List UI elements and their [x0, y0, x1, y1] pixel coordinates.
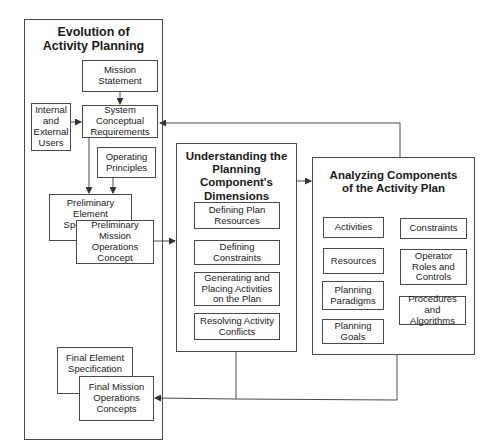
analyzing-item-planning-paradigms: Planning Paradigms — [322, 281, 384, 310]
final-mission-operations-concepts-box: Final Mission Operations Concepts — [79, 376, 154, 421]
understanding-item: Defining Constraints — [194, 240, 280, 265]
analyzing-item-operator-roles: Operator Roles and Controls — [400, 249, 467, 285]
analyzing-item-procedures-algorithms: Procedures and Algorithms — [399, 296, 466, 325]
analyzing-item-resources: Resources — [323, 248, 384, 274]
evolution-title: Evolution of Activity Planning — [24, 25, 163, 54]
understanding-item: Resolving Activity Conflicts — [194, 313, 280, 340]
analyzing-item-activities: Activities — [323, 217, 384, 238]
system-conceptual-requirements-box: System Conceptual Requirements — [82, 105, 158, 138]
analyzing-item-constraints: Constraints — [400, 218, 467, 239]
understanding-title: Understanding the Planning Component's D… — [176, 150, 297, 203]
understanding-item: Defining Plan Resources — [194, 202, 280, 229]
preliminary-mission-operations-concept-box: Preliminary Mission Operations Concept — [76, 220, 154, 264]
understanding-item: Generating and Placing Activities on the… — [194, 272, 280, 306]
analyzing-title: Analyzing Components of the Activity Pla… — [312, 169, 475, 195]
analyzing-item-planning-goals: Planning Goals — [322, 319, 384, 344]
operating-principles-box: Operating Principles — [97, 147, 156, 178]
mission-statement-box: Mission Statement — [82, 60, 158, 92]
arrow-feedback-to-final-ops — [155, 398, 397, 400]
internal-external-users-box: Internal and External Users — [31, 103, 71, 151]
